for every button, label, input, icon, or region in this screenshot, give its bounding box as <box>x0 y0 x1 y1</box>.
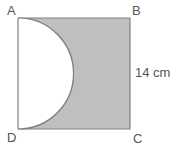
vertex-label-a: A <box>7 4 16 17</box>
dimension-label-side-length: 14 cm <box>135 66 170 80</box>
vertex-label-d: D <box>7 131 16 144</box>
vertex-label-b: B <box>132 4 141 17</box>
vertex-label-c: C <box>133 132 142 145</box>
geometry-figure: A B C D 14 cm <box>0 0 178 152</box>
